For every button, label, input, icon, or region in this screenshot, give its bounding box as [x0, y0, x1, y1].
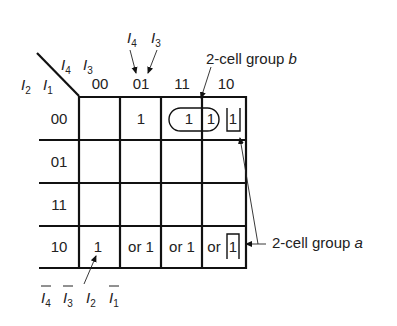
column-callout: I4 I3	[127, 29, 161, 73]
svg-text:2-cell group a: 2-cell group a	[272, 234, 363, 251]
svg-text:I4: I4	[41, 289, 51, 309]
svg-text:I2: I2	[86, 289, 96, 309]
svg-text:I1: I1	[43, 76, 53, 96]
row-header-00: 00	[51, 110, 68, 127]
cell-r00-c10-a: 1	[207, 110, 215, 127]
group-b-annotation: 2-cell group b	[201, 50, 297, 98]
svg-text:I3: I3	[151, 29, 161, 49]
svg-text:I2: I2	[21, 76, 31, 96]
svg-text:I3: I3	[63, 289, 73, 309]
col-header-00: 00	[92, 75, 109, 92]
row-header-11: 11	[51, 196, 67, 213]
svg-text:2-cell group b: 2-cell group b	[206, 50, 297, 67]
svg-text:I3: I3	[83, 56, 93, 76]
karnaugh-map-diagram: I4 I3 I2 I1 I4 I3 00 01 11 10 00 01 11 1…	[0, 0, 397, 326]
col-header-11: 11	[174, 75, 190, 92]
cell-r00-c10-b: 1	[229, 110, 237, 127]
cell-r10-c10-or: or	[207, 238, 220, 255]
group-a-annotation: 2-cell group a	[240, 138, 363, 251]
col-header-10: 10	[218, 75, 235, 92]
row-header-10: 10	[51, 238, 68, 255]
cell-r10-c01: or 1	[128, 238, 154, 255]
cell-r00-c01: 1	[137, 110, 145, 127]
corner-row-vars: I2 I1	[21, 76, 53, 96]
cell-r10-c10-1: 1	[229, 238, 237, 255]
corner-col-vars: I4 I3	[61, 56, 93, 76]
svg-text:I4: I4	[61, 56, 71, 76]
row-header-01: 01	[51, 153, 68, 170]
svg-text:I1: I1	[109, 289, 119, 309]
cell-r10-c11: or 1	[169, 238, 195, 255]
cell-r00-c11: 1	[185, 110, 193, 127]
svg-text:I4: I4	[127, 29, 137, 49]
column-headers: 00 01 11 10	[92, 75, 235, 92]
col-header-01: 01	[133, 75, 150, 92]
cell-r10-c00: 1	[94, 238, 102, 255]
